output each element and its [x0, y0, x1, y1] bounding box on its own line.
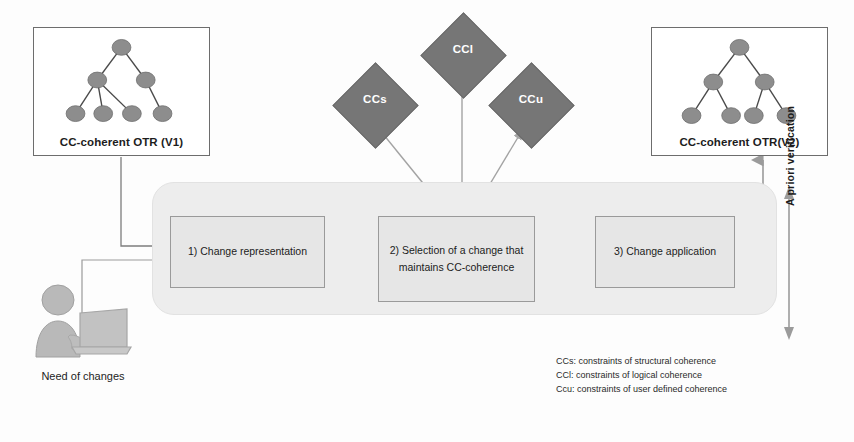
diagram-canvas: CC-coherent OTR (V1) CC-coheren [0, 0, 854, 442]
diamond-shape-ccu [488, 62, 574, 148]
actor-person-icon [36, 285, 86, 357]
verification-label: A priori verification [784, 76, 800, 206]
legend-item-ccu: Ccu: constraints of user defined coheren… [556, 383, 727, 397]
constraint-diamond-ccu: CCu [488, 62, 574, 148]
process-step-2: 2) Selection of a change that maintains … [378, 216, 535, 302]
diamond-label-ccu: CCu [488, 93, 574, 105]
legend: CCs: constraints of structural coherence… [556, 355, 727, 397]
version-label-v2: CC-coherent OTR(V2) [652, 136, 827, 148]
actor-label: Need of changes [8, 370, 158, 382]
actor-laptop-icon [72, 309, 131, 354]
diamond-label-ccs: CCs [332, 93, 418, 105]
tree-v1-nodes [66, 39, 172, 121]
diamond-shape-ccs [332, 62, 418, 148]
process-step-1: 1) Change representation [170, 216, 325, 288]
diamond-label-ccl: CCl [420, 43, 506, 55]
process-step-2-text: 2) Selection of a change that maintains … [390, 242, 524, 277]
legend-item-ccs: CCs: constraints of structural coherence [556, 355, 727, 369]
tree-v1 [34, 32, 209, 130]
process-step-1-label: 1) Change representation [188, 243, 307, 260]
version-box-v2: CC-coherent OTR(V2) [651, 27, 828, 156]
actor-person-with-laptop-icon [24, 283, 140, 361]
tree-v2 [652, 32, 827, 130]
process-step-2-line2: maintains CC-coherence [399, 261, 515, 273]
version-box-v1: CC-coherent OTR (V1) [33, 27, 210, 156]
verification-double-arrow [784, 186, 794, 340]
constraint-diamond-ccs: CCs [332, 62, 418, 148]
legend-item-ccl: CCl: constraints of logical coherence [556, 369, 727, 383]
process-step-3-label: 3) Change application [614, 243, 716, 260]
tree-v2-nodes [682, 39, 796, 123]
process-step-2-line1: 2) Selection of a change that [390, 244, 524, 256]
process-step-3: 3) Change application [595, 216, 735, 288]
version-label-v1: CC-coherent OTR (V1) [34, 136, 209, 148]
